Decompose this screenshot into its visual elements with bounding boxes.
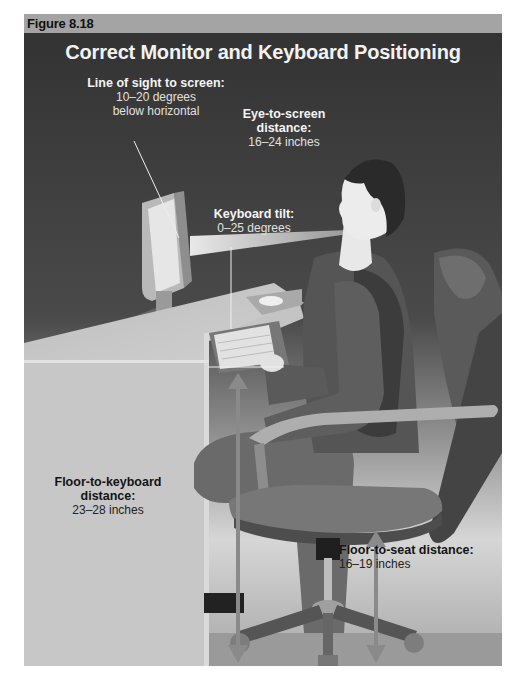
annotation-heading: distance: [24, 489, 198, 503]
annotation-value: 10–20 degrees [66, 90, 246, 104]
annotation-floor-to-seat: Floor-to-seat distance: 16–19 inches [339, 543, 502, 571]
annotation-value: 0–25 degrees [194, 221, 314, 235]
figure: Figure 8.18 [24, 14, 502, 666]
annotation-heading: Line of sight to screen: [66, 76, 246, 90]
annotation-value: 16–24 inches [214, 135, 354, 149]
annotation-value: 16–19 inches [339, 557, 502, 571]
annotation-heading: Keyboard tilt: [194, 207, 314, 221]
annotation-eye-to-screen: Eye-to-screen distance: 16–24 inches [214, 107, 354, 149]
annotation-heading: Floor-to-keyboard [24, 475, 198, 489]
figure-header-bar: Figure 8.18 [24, 14, 502, 33]
annotation-heading: distance: [214, 121, 354, 135]
figure-title: Correct Monitor and Keyboard Positioning [24, 41, 502, 64]
annotation-value: 23–28 inches [24, 503, 198, 517]
annotation-floor-to-keyboard: Floor-to-keyboard distance: 23–28 inches [24, 475, 198, 517]
annotation-heading: Eye-to-screen [214, 107, 354, 121]
figure-label: Figure 8.18 [27, 16, 93, 31]
annotation-heading: Floor-to-seat distance: [339, 543, 502, 557]
annotation-keyboard-tilt: Keyboard tilt: 0–25 degrees [194, 207, 314, 235]
